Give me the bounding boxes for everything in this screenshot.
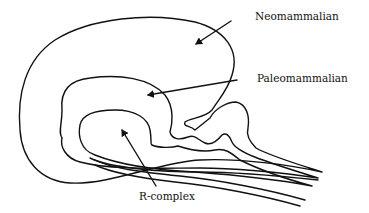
r-complex-outline [79,110,312,186]
neomammalian-outline [19,17,322,183]
triune-brain-diagram: Neomammalian Paleomammalian R-complex [0,0,369,213]
brainstem-line-3 [95,165,300,206]
label-paleomammalian: Paleomammalian [257,72,348,84]
brain-outline-drawing [0,0,369,213]
label-r-complex: R-complex [139,190,195,202]
label-neomammalian: Neomammalian [255,10,339,22]
